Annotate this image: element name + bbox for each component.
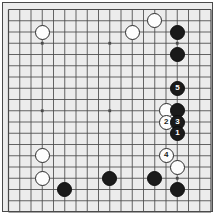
stone-white	[35, 148, 50, 163]
go-board-diagram: 52314	[0, 0, 217, 218]
stone-black	[170, 47, 185, 62]
stone-move-number: 1	[175, 129, 179, 137]
move-stone-4-white: 4	[159, 148, 174, 163]
stone-white	[35, 25, 50, 40]
stone-move-number: 3	[175, 118, 179, 126]
move-stone-1-black: 1	[170, 126, 185, 141]
stone-move-number: 4	[164, 151, 168, 159]
stone-move-number: 2	[164, 118, 168, 126]
stone-black	[147, 171, 162, 186]
stone-black	[170, 25, 185, 40]
stone-white	[35, 171, 50, 186]
stone-black	[170, 182, 185, 197]
stone-move-number: 5	[175, 84, 179, 92]
move-stone-5-black: 5	[170, 81, 185, 96]
stone-white	[125, 25, 140, 40]
stone-white	[170, 160, 185, 175]
stone-black	[102, 171, 117, 186]
